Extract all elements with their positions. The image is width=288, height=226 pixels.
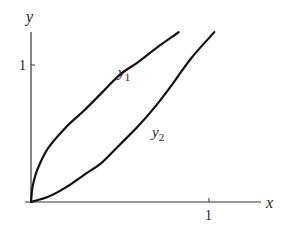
x-axis-label: x [265, 194, 273, 211]
curve-y2 [31, 32, 214, 202]
chart: 1 1 y x y1 y2 [0, 0, 288, 226]
y-tick-label: 1 [19, 58, 26, 73]
label-y2: y2 [150, 124, 164, 143]
label-y1: y1 [116, 64, 130, 83]
y-axis-label: y [24, 8, 34, 26]
curve-y1 [31, 32, 179, 202]
x-tick-label: 1 [205, 208, 212, 223]
